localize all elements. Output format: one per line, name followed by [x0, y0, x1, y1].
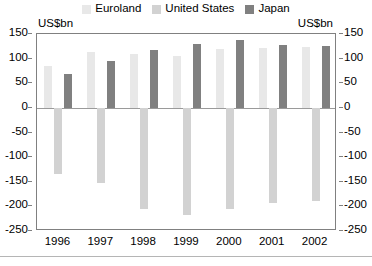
- bar-1998-euroland: [130, 54, 138, 108]
- bar-2001-united-states: [269, 108, 277, 203]
- bar-group-1998: [123, 34, 166, 229]
- y-tick-label-right-4: -50: [344, 126, 361, 138]
- y-tick-label-right-6: -150: [344, 175, 367, 187]
- bar-group-2002: [294, 34, 336, 229]
- y-tick-label-right-1: 100: [344, 52, 363, 64]
- bar-1999-united-states: [183, 108, 191, 215]
- x-tick-label-1996: 1996: [36, 236, 79, 248]
- legend-label-euroland: Euroland: [95, 3, 141, 15]
- y-tick-mark-left-3: [28, 107, 32, 108]
- y-tick-mark-right-7: [339, 205, 343, 206]
- y-tick-label-right-0: 150: [344, 27, 363, 39]
- y-tick-mark-right-8: [339, 230, 343, 231]
- y-tick-label-right-7: -200: [344, 199, 367, 211]
- legend-item-united_states: United States: [152, 3, 234, 15]
- x-tick-label-1998: 1998: [122, 236, 165, 248]
- bar-1996-united-states: [54, 108, 62, 174]
- bar-1997-united-states: [97, 108, 105, 183]
- bar-2001-japan: [279, 45, 287, 108]
- bar-2000-united-states: [226, 108, 234, 209]
- y-tick-mark-right-3: [339, 107, 343, 108]
- legend-swatch-united_states-icon: [152, 5, 161, 14]
- bar-1996-japan: [64, 74, 72, 107]
- y-tick-label-left-5: -100: [5, 150, 28, 162]
- y-tick-label-left-4: -50: [11, 126, 28, 138]
- legend-swatch-euroland-icon: [82, 5, 91, 14]
- bar-group-1999: [166, 34, 209, 229]
- current-account-balances-bar-chart: EurolandUnited StatesJapan US$bn US$bn 1…: [0, 0, 372, 266]
- bar-1998-united-states: [140, 108, 148, 209]
- y-tick-mark-left-2: [28, 82, 32, 83]
- legend-item-euroland: Euroland: [82, 3, 141, 15]
- y-tick-mark-left-0: [28, 33, 32, 34]
- bar-1996-euroland: [44, 66, 52, 108]
- right-y-axis: 150100500-50-100-150-200-250: [339, 33, 372, 230]
- y-tick-label-left-2: 50: [15, 76, 28, 88]
- x-tick-label-1997: 1997: [79, 236, 122, 248]
- bar-2000-japan: [236, 40, 244, 107]
- bar-2002-united-states: [312, 108, 320, 202]
- x-tick-label-1999: 1999: [165, 236, 208, 248]
- y-tick-label-right-3: 0: [344, 101, 350, 113]
- bar-group-2001: [251, 34, 294, 229]
- y-tick-label-left-6: -150: [5, 175, 28, 187]
- legend-item-japan: Japan: [245, 3, 289, 15]
- x-tick-label-2001: 2001: [250, 236, 293, 248]
- legend-swatch-japan-icon: [245, 5, 254, 14]
- y-tick-label-right-8: -250: [344, 224, 367, 236]
- y-tick-label-left-1: 100: [9, 52, 28, 64]
- right-axis-unit-label: US$bn: [298, 18, 333, 30]
- legend-label-japan: Japan: [258, 3, 289, 15]
- legend-label-united_states: United States: [165, 3, 234, 15]
- bottom-divider: [0, 256, 372, 257]
- bar-group-1996: [37, 34, 80, 229]
- bar-1999-japan: [193, 44, 201, 108]
- bar-1997-euroland: [87, 52, 95, 108]
- y-tick-mark-right-2: [339, 82, 343, 83]
- y-tick-mark-left-8: [28, 230, 32, 231]
- y-tick-mark-right-0: [339, 33, 343, 34]
- x-tick-label-2000: 2000: [207, 236, 250, 248]
- y-tick-mark-left-6: [28, 181, 32, 182]
- y-tick-mark-left-5: [28, 156, 32, 157]
- bar-1998-japan: [150, 50, 158, 108]
- bar-2002-japan: [322, 46, 330, 108]
- y-tick-label-right-2: 50: [344, 76, 357, 88]
- x-tick-label-2002: 2002: [293, 236, 336, 248]
- bar-2000-euroland: [216, 49, 224, 108]
- chart-legend: EurolandUnited StatesJapan: [0, 1, 372, 17]
- plot-area: [36, 33, 336, 230]
- bar-1999-euroland: [173, 56, 181, 108]
- y-tick-mark-left-1: [28, 58, 32, 59]
- y-tick-mark-right-5: [339, 156, 343, 157]
- y-tick-label-left-8: -250: [5, 224, 28, 236]
- bar-2002-euroland: [302, 47, 310, 108]
- y-tick-mark-right-1: [339, 58, 343, 59]
- y-tick-mark-right-6: [339, 181, 343, 182]
- y-tick-mark-left-7: [28, 205, 32, 206]
- y-tick-label-left-0: 150: [9, 27, 28, 39]
- y-tick-label-right-5: -100: [344, 150, 367, 162]
- left-axis-unit-label: US$bn: [38, 18, 73, 30]
- bar-2001-euroland: [259, 48, 267, 108]
- left-y-axis: 150100500-50-100-150-200-250: [0, 33, 32, 230]
- bar-1997-japan: [107, 61, 115, 108]
- bar-group-2000: [208, 34, 251, 229]
- y-tick-label-left-7: -200: [5, 199, 28, 211]
- bar-group-1997: [80, 34, 123, 229]
- y-tick-mark-left-4: [28, 132, 32, 133]
- x-axis-category-labels: 1996199719981999200020012002: [36, 236, 336, 252]
- y-tick-mark-right-4: [339, 132, 343, 133]
